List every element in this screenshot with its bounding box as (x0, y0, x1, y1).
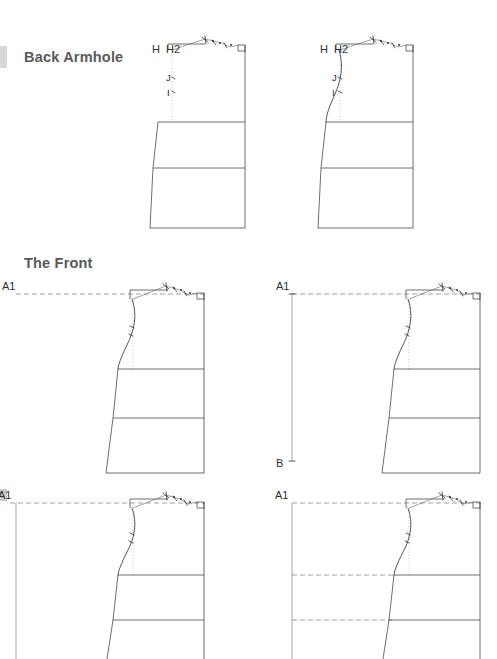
figure-front-top-right: A1 B (276, 281, 491, 476)
label-a1: A1 (276, 280, 289, 292)
figure-front-bottom-right: A1 (276, 489, 491, 659)
label-j: J (332, 72, 337, 83)
page-canvas: Back Armhole (0, 0, 497, 659)
label-h: H (320, 43, 328, 55)
figure-back-armhole-right: H H2 J I (318, 28, 428, 243)
figure-front-bottom-left: A1 (0, 489, 215, 659)
label-h: H (152, 43, 160, 55)
section-heading-the-front: The Front (24, 256, 93, 271)
label-i: I (167, 87, 170, 98)
label-b: B (276, 457, 283, 469)
label-j: J (166, 72, 171, 83)
label-i: I (332, 87, 335, 98)
label-a1: A1 (0, 489, 11, 501)
label-h2: H2 (334, 43, 348, 55)
figure-front-top-left: A1 (0, 281, 215, 476)
label-h2: H2 (166, 43, 180, 55)
label-a1: A1 (275, 489, 288, 501)
edge-bleed-mark-top (0, 46, 7, 68)
figure-back-armhole-left: H H2 J I (150, 28, 260, 243)
section-heading-back-armhole: Back Armhole (24, 50, 123, 65)
label-a1: A1 (2, 280, 15, 292)
